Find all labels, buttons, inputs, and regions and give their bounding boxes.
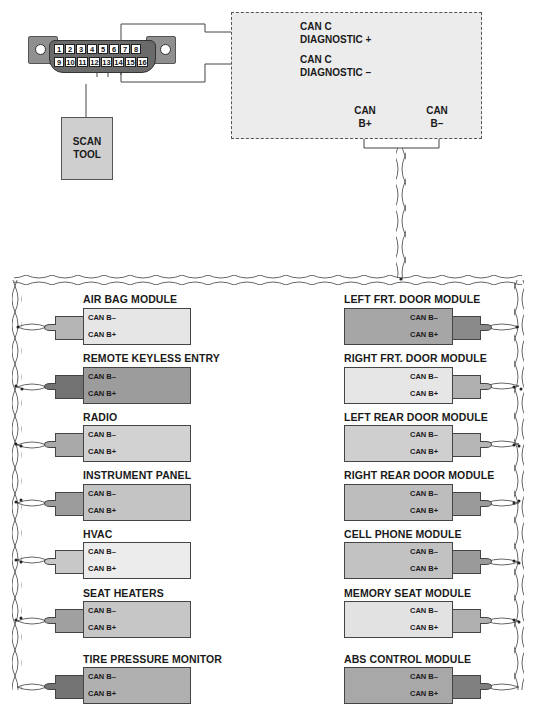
- pin-15: 15: [125, 57, 136, 67]
- can-c-diag-plus-2: DIAGNOSTIC +: [300, 33, 371, 46]
- module-title-instrument-panel: INSTRUMENT PANEL: [83, 469, 191, 481]
- pin-label-minus: CAN B–: [410, 547, 438, 556]
- pin-label-plus: CAN B+: [410, 447, 438, 456]
- module-plug-tip-abs-control-module: [480, 683, 492, 690]
- pin-label-minus: CAN B–: [410, 313, 438, 322]
- pin-label-plus: CAN B+: [88, 389, 116, 398]
- module-plug-seat-heaters: [55, 609, 84, 633]
- module-plug-cell-phone-module: [452, 550, 481, 574]
- pin-label-plus: CAN B+: [410, 564, 438, 573]
- can-c-diag-plus-1: CAN C: [300, 20, 332, 33]
- pin-label-plus: CAN B+: [88, 689, 116, 698]
- module-title-air-bag-module: AIR BAG MODULE: [83, 293, 177, 305]
- mount-hole-left: [35, 44, 46, 55]
- module-plug-tip-left-rear-door-module: [480, 441, 492, 448]
- pin-label-minus: CAN B–: [88, 489, 116, 498]
- can-b-plus-1: CAN: [353, 104, 377, 117]
- pin-label-minus: CAN B–: [410, 489, 438, 498]
- module-plug-tip-radio: [44, 441, 56, 448]
- module-plug-air-bag-module: [55, 316, 84, 340]
- pin-label-plus: CAN B+: [88, 564, 116, 573]
- module-plug-tip-air-bag-module: [44, 324, 56, 331]
- pin-label-plus: CAN B+: [410, 389, 438, 398]
- pin-label-plus: CAN B+: [88, 330, 116, 339]
- module-plug-memory-seat-module: [452, 609, 481, 633]
- pin-label-plus: CAN B+: [410, 623, 438, 632]
- pin-10: 10: [65, 57, 76, 67]
- module-title-left-frt-door-module: LEFT FRT. DOOR MODULE: [344, 293, 480, 305]
- pin-row-bottom: 910111213141516: [54, 57, 148, 67]
- module-plug-left-rear-door-module: [452, 433, 481, 457]
- pin-label-minus: CAN B–: [410, 606, 438, 615]
- pin-label-plus: CAN B+: [88, 447, 116, 456]
- can-b-plus-2: B+: [353, 117, 377, 130]
- pin-label-minus: CAN B–: [88, 606, 116, 615]
- module-title-left-rear-door-module: LEFT REAR DOOR MODULE: [344, 411, 488, 423]
- module-plug-tip-hvac: [44, 558, 56, 565]
- can-c-diag-minus-2: DIAGNOSTIC –: [300, 66, 371, 79]
- pin-label-plus: CAN B+: [410, 330, 438, 339]
- module-plug-tip-left-frt-door-module: [480, 324, 492, 331]
- pin-row-top: 12345678: [54, 44, 141, 54]
- pin-8: 8: [131, 44, 141, 54]
- can-b-minus-2: B–: [425, 117, 449, 130]
- scan-tool-label-1: SCAN: [62, 135, 112, 148]
- module-plug-tip-right-rear-door-module: [480, 500, 492, 507]
- pin-label-minus: CAN B–: [88, 313, 116, 322]
- module-plug-abs-control-module: [452, 675, 481, 699]
- pin-label-minus: CAN B–: [88, 430, 116, 439]
- module-title-right-frt-door-module: RIGHT FRT. DOOR MODULE: [344, 352, 487, 364]
- module-plug-hvac: [55, 550, 84, 574]
- pin-12: 12: [89, 57, 100, 67]
- module-title-cell-phone-module: CELL PHONE MODULE: [344, 528, 462, 540]
- module-plug-tire-pressure-monitor: [55, 675, 84, 699]
- pin-label-minus: CAN B–: [410, 430, 438, 439]
- module-plug-instrument-panel: [55, 492, 84, 516]
- module-title-seat-heaters: SEAT HEATERS: [83, 587, 164, 599]
- module-title-tire-pressure-monitor: TIRE PRESSURE MONITOR: [83, 653, 222, 665]
- pin-4: 4: [87, 44, 97, 54]
- module-plug-radio: [55, 433, 84, 457]
- can-b-minus-1: CAN: [425, 104, 449, 117]
- module-plug-tip-right-frt-door-module: [480, 383, 492, 390]
- pin-16: 16: [137, 57, 148, 67]
- module-title-abs-control-module: ABS CONTROL MODULE: [344, 653, 471, 665]
- pin-label-plus: CAN B+: [410, 689, 438, 698]
- module-plug-tip-tire-pressure-monitor: [44, 683, 56, 690]
- module-plug-tip-instrument-panel: [44, 500, 56, 507]
- pin-14: 14: [113, 57, 124, 67]
- module-title-hvac: HVAC: [83, 528, 112, 540]
- mount-hole-right: [160, 44, 171, 55]
- module-title-right-rear-door-module: RIGHT REAR DOOR MODULE: [344, 469, 494, 481]
- module-title-memory-seat-module: MEMORY SEAT MODULE: [344, 587, 471, 599]
- module-plug-left-frt-door-module: [452, 316, 481, 340]
- module-title-radio: RADIO: [83, 411, 117, 423]
- pin-9: 9: [54, 57, 64, 67]
- pin-5: 5: [98, 44, 108, 54]
- scan-tool-label-2: TOOL: [62, 148, 112, 161]
- pin-label-plus: CAN B+: [88, 623, 116, 632]
- module-plug-tip-remote-keyless-entry: [44, 383, 56, 390]
- pin-label-minus: CAN B–: [88, 372, 116, 381]
- can-c-diag-minus-1: CAN C: [300, 53, 332, 66]
- module-plug-tip-seat-heaters: [44, 617, 56, 624]
- module-plug-remote-keyless-entry: [55, 375, 84, 399]
- module-title-remote-keyless-entry: REMOTE KEYLESS ENTRY: [83, 352, 220, 364]
- pin-label-minus: CAN B–: [88, 672, 116, 681]
- pin-6: 6: [109, 44, 119, 54]
- pin-1: 1: [54, 44, 64, 54]
- pin-label-plus: CAN B+: [88, 506, 116, 515]
- scan-tool-box: SCAN TOOL: [61, 117, 113, 180]
- pin-label-plus: CAN B+: [410, 506, 438, 515]
- pin-3: 3: [76, 44, 86, 54]
- module-plug-right-rear-door-module: [452, 492, 481, 516]
- pin-7: 7: [120, 44, 130, 54]
- module-plug-tip-cell-phone-module: [480, 558, 492, 565]
- pin-2: 2: [65, 44, 75, 54]
- pin-label-minus: CAN B–: [88, 547, 116, 556]
- module-plug-right-frt-door-module: [452, 375, 481, 399]
- pin-13: 13: [101, 57, 112, 67]
- pin-11: 11: [77, 57, 88, 67]
- pin-label-minus: CAN B–: [410, 372, 438, 381]
- obd-connector: 12345678 910111213141516: [28, 35, 178, 67]
